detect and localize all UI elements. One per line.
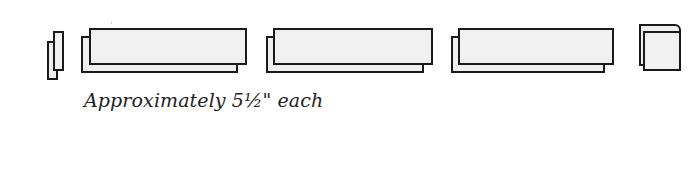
square-end-piece-front xyxy=(643,31,681,71)
long-panel-2-front xyxy=(273,28,433,65)
long-panel-1-front xyxy=(89,28,247,65)
faint-mark xyxy=(111,22,112,24)
long-panel-3-front xyxy=(458,28,614,65)
size-caption: Approximately 5½" each xyxy=(84,89,323,111)
small-end-piece-front xyxy=(53,31,64,71)
